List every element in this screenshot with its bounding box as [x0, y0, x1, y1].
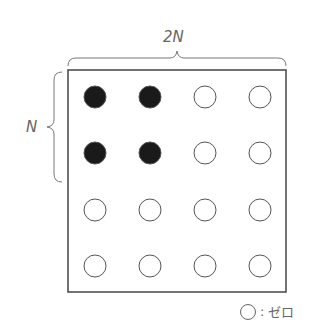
open-circle-icon	[194, 199, 216, 221]
open-circle-icon	[249, 199, 271, 221]
open-circle-icon	[249, 142, 271, 164]
open-circle-icon	[84, 255, 106, 277]
left-label: N	[26, 118, 37, 136]
open-circle-icon	[249, 255, 271, 277]
legend: : ゼロ	[240, 302, 294, 321]
open-circle-icon	[194, 255, 216, 277]
open-circle-icon	[249, 86, 271, 108]
legend-text: ゼロ	[268, 302, 294, 321]
matrix-diagram	[0, 0, 320, 332]
filled-circle-icon	[139, 142, 161, 164]
filled-circle-icon	[84, 86, 106, 108]
legend-separator: :	[260, 304, 264, 319]
filled-circle-icon	[84, 142, 106, 164]
open-circle-icon	[240, 304, 256, 320]
top-brace-icon	[68, 51, 286, 66]
open-circle-icon	[139, 199, 161, 221]
open-circle-icon	[194, 142, 216, 164]
filled-circle-icon	[139, 86, 161, 108]
left-brace-icon	[47, 72, 62, 182]
open-circle-icon	[194, 86, 216, 108]
open-circle-icon	[84, 199, 106, 221]
top-label: 2N	[163, 28, 184, 46]
open-circle-icon	[139, 255, 161, 277]
